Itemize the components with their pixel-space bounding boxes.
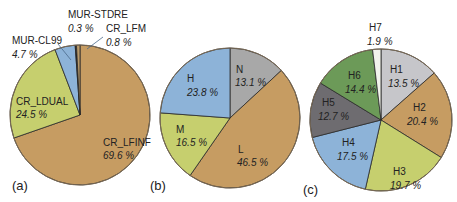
slice-label: MUR-STDRE	[68, 9, 128, 20]
slice-percentage: 17.5 %	[337, 151, 368, 162]
panel-label-a: (a)	[12, 178, 28, 193]
slice-label: H1	[390, 64, 403, 75]
slice-percentage: 24.5 %	[15, 109, 47, 120]
slice-label: H2	[413, 102, 426, 113]
pie-chart-b: N13.1 %L46.5 %M16.5 %H23.8 %	[160, 48, 300, 188]
slice-percentage: 13.1 %	[235, 77, 266, 88]
slice-label: MUR-CL99	[12, 35, 62, 46]
slice-label: H3	[393, 166, 406, 177]
pie-chart-c: H113.5 %H220.4 %H319.7 %H417.5 %H512.7 %…	[310, 22, 452, 191]
slice-percentage: 0.8 %	[106, 37, 132, 48]
slice-label: H4	[342, 137, 355, 148]
slice-label: CR_LFINF	[103, 137, 151, 148]
slice-label: H6	[348, 70, 361, 81]
slice-label: H7	[369, 22, 382, 33]
pie-chart-figure: CR_LFINF69.6 %CR_LDUAL24.5 %MUR-CL994.7 …	[0, 0, 457, 202]
slice-percentage: 14.4 %	[345, 84, 376, 95]
slice-percentage: 19.7 %	[390, 180, 421, 191]
slice-label: CR_LDUAL	[16, 96, 69, 107]
slice-label: H	[187, 73, 194, 84]
slice-label: M	[176, 124, 184, 135]
slice-percentage: 69.6 %	[103, 150, 134, 161]
slice-percentage: 1.9 %	[367, 36, 393, 47]
pie-chart-a: CR_LFINF69.6 %CR_LDUAL24.5 %MUR-CL994.7 …	[10, 9, 151, 185]
slice-percentage: 23.8 %	[186, 87, 218, 98]
slice-percentage: 12.7 %	[318, 111, 349, 122]
slice-label: L	[238, 144, 244, 155]
slice-label: H5	[322, 97, 335, 108]
slice-percentage: 13.5 %	[388, 78, 419, 89]
slice-percentage: 16.5 %	[176, 137, 207, 148]
slice-percentage: 0.3 %	[68, 23, 94, 34]
panel-label-c: (c)	[303, 182, 318, 197]
slice-label: CR_LFM	[106, 23, 146, 34]
slice-percentage: 20.4 %	[406, 116, 438, 127]
panel-label-b: (b)	[150, 178, 166, 193]
slice-percentage: 4.7 %	[12, 49, 38, 60]
pie-slice-h	[160, 48, 230, 118]
slice-percentage: 46.5 %	[237, 157, 268, 168]
slice-label: N	[236, 64, 243, 75]
